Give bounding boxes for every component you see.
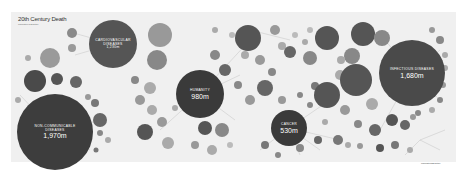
humanity-label: HUMANITY 980m (180, 89, 220, 100)
credit: InformationIsBeautiful (421, 162, 440, 164)
ncd-label: NON-COMMUNICABLE DISEASES 1,970m (26, 125, 84, 139)
cancer-label: CANCER 530m (274, 123, 304, 134)
humanity-value: 980m (180, 92, 220, 99)
cardio-value: 1,230m (93, 46, 133, 50)
cardio-label: CARDIOVASCULAR DISEASES 1,230m (93, 39, 133, 50)
ncd-value: 1,970m (26, 132, 84, 139)
cancer-value: 530m (274, 126, 304, 133)
ncd-name: NON-COMMUNICABLE DISEASES (26, 125, 84, 132)
bubble-chart (0, 0, 461, 173)
infectious-value: 1,680m (387, 71, 437, 78)
infectious-label: INFECTIOUS DISEASES 1,680m (387, 68, 437, 79)
